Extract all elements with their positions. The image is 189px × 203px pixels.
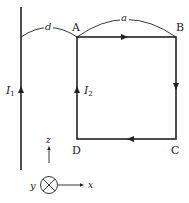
wire-current-arrow-icon <box>18 86 24 93</box>
wire-current-label: I1 <box>5 84 15 98</box>
loop-current-label: I2 <box>83 84 93 98</box>
distance-d-label: d <box>45 21 51 32</box>
x-axis-label: x <box>88 180 93 190</box>
bc-arrow-icon <box>173 83 179 90</box>
z-axis-label: z <box>45 135 51 145</box>
corner-a-label: A <box>71 21 81 34</box>
side-a-label: a <box>121 12 127 23</box>
square-loop <box>74 34 179 142</box>
straight-wire <box>18 7 24 170</box>
diagram-canvas: I1 d a I2 A B C D z x y <box>0 0 189 203</box>
cd-arrow-icon <box>127 136 134 142</box>
corner-b-label: B <box>176 21 184 34</box>
corner-d-label: D <box>72 144 81 157</box>
y-axis-label: y <box>29 180 36 191</box>
da-arrow-icon <box>74 86 80 93</box>
into-page-y-icon <box>41 177 58 194</box>
ab-arrow-icon <box>121 34 128 40</box>
corner-c-label: C <box>171 144 179 157</box>
